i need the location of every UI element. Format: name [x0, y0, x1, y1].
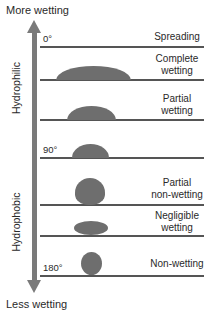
surface-line-partial-wetting	[40, 119, 204, 121]
angle-0-label: 0°	[43, 33, 52, 44]
droplet-nonwetting	[81, 252, 102, 275]
surface-line-nonwetting	[40, 275, 204, 277]
state-negligible-wetting: Negligible wetting	[143, 210, 211, 234]
state-spreading: Spreading	[145, 31, 209, 43]
surface-line-negligible	[40, 235, 204, 237]
surface-line-spreading	[40, 46, 204, 48]
droplet-partial-nonwetting	[75, 178, 105, 205]
state-partial-wetting: Partial wetting	[145, 93, 209, 117]
hydrophobic-label: Hydrophobic	[10, 190, 22, 254]
angle-180-label: 180°	[43, 262, 63, 273]
wetting-axis-arrow	[32, 32, 37, 282]
hydrophilic-label: Hydrophilic	[10, 58, 22, 118]
state-partial-nonwetting: Partial non-wetting	[143, 177, 211, 201]
more-wetting-label: More wetting	[6, 4, 69, 16]
droplet-negligible-wetting	[74, 221, 108, 235]
state-nonwetting: Non-wetting	[143, 258, 211, 270]
angle-90-label: 90°	[43, 144, 57, 155]
surface-line-partial-nonwetting	[40, 204, 204, 206]
arrow-down-icon	[27, 280, 41, 293]
state-complete-wetting: Complete wetting	[145, 53, 209, 77]
droplet-partial-wetting	[67, 106, 116, 120]
less-wetting-label: Less wetting	[6, 298, 67, 310]
droplet-90-degree	[72, 144, 109, 158]
droplet-complete-wetting	[56, 66, 131, 80]
surface-line-90	[40, 157, 204, 159]
